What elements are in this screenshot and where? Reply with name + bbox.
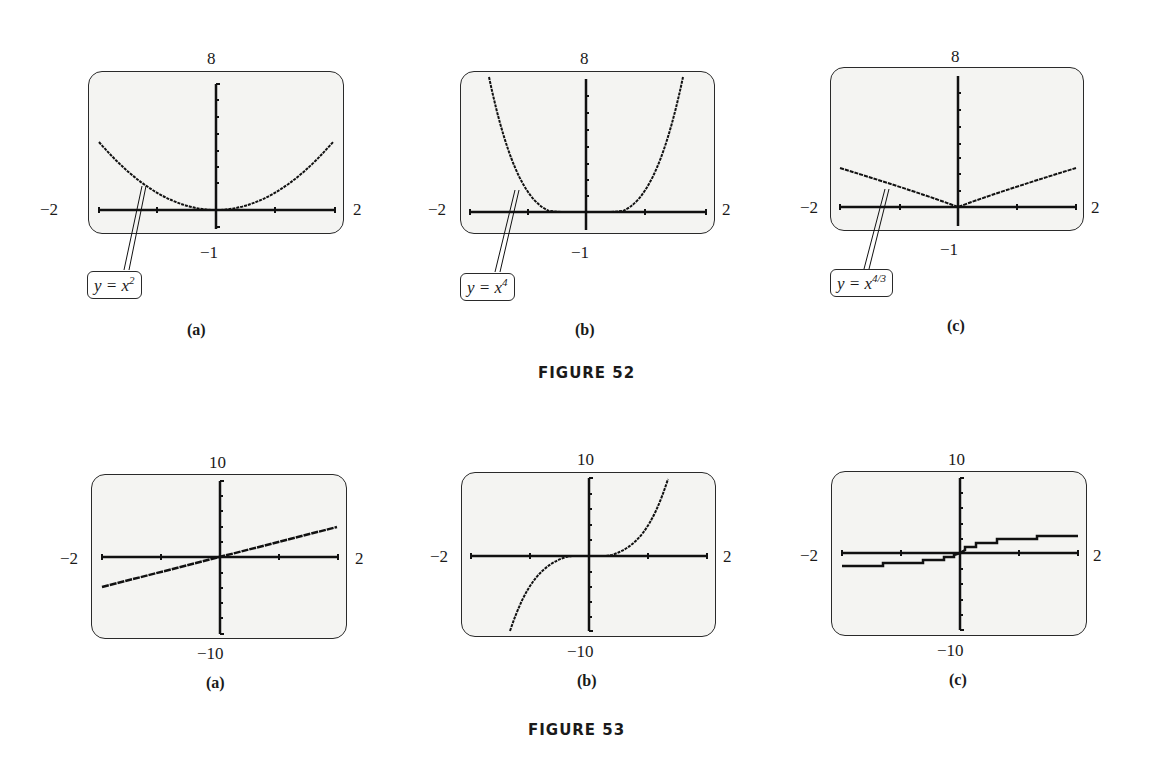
y-min-label: −10 bbox=[567, 643, 594, 660]
x-min-label: −2 bbox=[430, 548, 448, 565]
calculator-screen bbox=[830, 67, 1084, 231]
y-max-label: 8 bbox=[951, 48, 960, 65]
x-max-label: 2 bbox=[355, 550, 364, 567]
panel-caption: (b) bbox=[575, 322, 595, 338]
y-max-label: 8 bbox=[580, 50, 589, 67]
x-min-label: −2 bbox=[800, 199, 818, 216]
figure-title: FIGURE 52 bbox=[538, 364, 635, 382]
y-max-label: 10 bbox=[209, 454, 226, 471]
x-max-label: 2 bbox=[1093, 547, 1102, 564]
y-min-label: −1 bbox=[571, 244, 589, 261]
function-callout: y = x2 bbox=[87, 271, 142, 299]
calculator-screen bbox=[831, 471, 1087, 636]
x-min-label: −2 bbox=[800, 547, 818, 564]
panel-caption: (a) bbox=[206, 675, 225, 691]
y-min-label: −1 bbox=[200, 244, 218, 261]
callout-text: y = x bbox=[467, 278, 502, 297]
plot-area bbox=[462, 473, 717, 638]
x-min-label: −2 bbox=[428, 201, 446, 218]
function-callout: y = x4 bbox=[460, 273, 515, 301]
plot-area bbox=[832, 472, 1088, 637]
panel-caption: (b) bbox=[577, 673, 597, 689]
figure-title: FIGURE 53 bbox=[528, 721, 625, 739]
plot-area bbox=[461, 72, 716, 235]
x-max-label: 2 bbox=[723, 548, 732, 565]
x-min-label: −2 bbox=[40, 201, 58, 218]
plot-area bbox=[89, 72, 345, 235]
panel-caption: (c) bbox=[947, 318, 965, 334]
x-max-label: 2 bbox=[353, 201, 362, 218]
panel-caption: (c) bbox=[949, 672, 967, 688]
y-max-label: 10 bbox=[577, 451, 594, 468]
y-min-label: −10 bbox=[937, 642, 964, 659]
callout-text: y = x bbox=[837, 274, 872, 293]
y-max-label: 10 bbox=[948, 451, 965, 468]
x-max-label: 2 bbox=[722, 201, 731, 218]
calculator-screen bbox=[88, 71, 344, 234]
y-max-label: 8 bbox=[207, 50, 216, 67]
calculator-screen bbox=[91, 474, 347, 639]
plot-area bbox=[92, 475, 348, 640]
callout-exponent: 4/3 bbox=[872, 272, 886, 284]
y-min-label: −10 bbox=[197, 645, 224, 662]
x-max-label: 2 bbox=[1091, 199, 1100, 216]
calculator-screen bbox=[461, 472, 716, 637]
panel-caption: (a) bbox=[187, 322, 206, 338]
callout-exponent: 4 bbox=[502, 276, 508, 288]
function-callout: y = x4/3 bbox=[830, 269, 893, 297]
plot-area bbox=[831, 68, 1085, 232]
x-min-label: −2 bbox=[60, 550, 78, 567]
y-min-label: −1 bbox=[940, 241, 958, 258]
callout-text: y = x bbox=[94, 276, 129, 295]
callout-exponent: 2 bbox=[129, 274, 135, 286]
calculator-screen bbox=[460, 71, 715, 234]
